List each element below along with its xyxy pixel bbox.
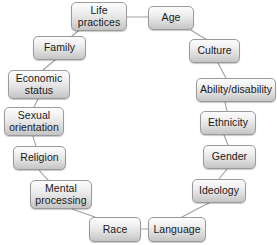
- node-label-ideology: Ideology: [196, 185, 242, 197]
- connector-religion-to-sexual-orientation: [33, 136, 36, 146]
- node-ability-disability[interactable]: Ability/disability: [196, 78, 276, 102]
- node-label-race: Race: [100, 224, 131, 236]
- node-family[interactable]: Family: [33, 36, 86, 60]
- connector-mental-processing-to-religion: [39, 170, 48, 180]
- node-economic-status[interactable]: Economic status: [8, 70, 70, 99]
- node-mental-processing[interactable]: Mental processing: [30, 180, 92, 209]
- connector-ideology-to-language: [182, 203, 209, 217]
- node-ethnicity[interactable]: Ethnicity: [200, 111, 256, 135]
- connector-race-to-mental-processing: [72, 209, 95, 217]
- node-culture[interactable]: Culture: [189, 39, 240, 63]
- node-language[interactable]: Language: [148, 217, 206, 242]
- node-label-mental-processing: Mental processing: [31, 183, 91, 206]
- node-label-culture: Culture: [194, 45, 234, 57]
- node-label-ability-disability: Ability/disability: [197, 84, 275, 96]
- node-ideology[interactable]: Ideology: [192, 179, 246, 203]
- connector-sexual-orientation-to-economic-status: [34, 99, 38, 107]
- node-label-age: Age: [159, 12, 184, 24]
- node-label-sexual-orientation: Sexual orientation: [5, 110, 63, 133]
- connector-economic-status-to-family: [43, 60, 55, 70]
- node-label-life-practices: Life practices: [72, 5, 126, 28]
- node-label-ethnicity: Ethnicity: [205, 117, 251, 129]
- connector-ethnicity-to-gender: [224, 135, 228, 145]
- connector-age-to-culture: [191, 30, 206, 39]
- connector-ability-disability-to-ethnicity: [225, 102, 227, 111]
- node-religion[interactable]: Religion: [13, 146, 66, 170]
- node-label-economic-status: Economic status: [9, 73, 69, 96]
- node-label-religion: Religion: [17, 152, 61, 164]
- node-label-gender: Gender: [209, 151, 250, 163]
- node-life-practices[interactable]: Life practices: [71, 2, 127, 31]
- node-label-language: Language: [150, 224, 203, 236]
- node-gender[interactable]: Gender: [203, 145, 256, 169]
- node-age[interactable]: Age: [148, 6, 194, 30]
- diagram-canvas: Life practicesAgeCultureAbility/disabili…: [0, 0, 277, 245]
- connector-culture-to-ability-disability: [218, 63, 226, 78]
- node-sexual-orientation[interactable]: Sexual orientation: [4, 107, 64, 136]
- node-label-family: Family: [41, 42, 78, 54]
- node-race[interactable]: Race: [89, 217, 141, 242]
- connector-gender-to-ideology: [219, 169, 227, 179]
